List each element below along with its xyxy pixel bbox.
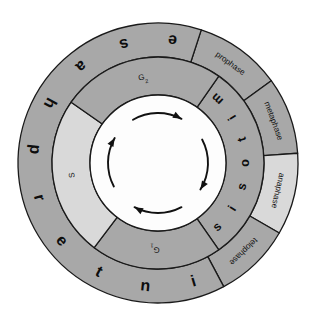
cell-cycle-diagram: prophasemetaphaseanaphasetelophaseinterp… <box>0 0 317 317</box>
middle-label-letter-mitosis-3: o <box>238 159 252 167</box>
outer-label-letter-interphase-1: n <box>140 276 151 294</box>
center-disc <box>90 95 226 231</box>
